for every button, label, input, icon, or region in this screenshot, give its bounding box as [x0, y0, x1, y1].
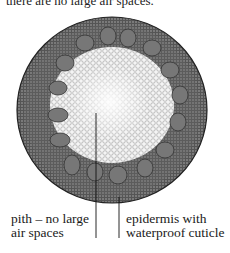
- pith-label-line1: pith – no large: [11, 212, 89, 226]
- epidermis-label: epidermis with waterproof cuticle: [126, 212, 225, 240]
- epidermis-label-line2: waterproof cuticle: [126, 226, 225, 240]
- pith-label: pith – no large air spaces: [11, 212, 89, 240]
- pith-label-line2: air spaces: [11, 226, 89, 240]
- epidermis-label-line1: epidermis with: [126, 212, 225, 226]
